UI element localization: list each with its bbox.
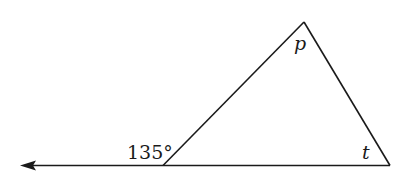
exterior-angle-label: 135° xyxy=(127,141,173,163)
left-side xyxy=(163,22,304,166)
top-angle-label: p xyxy=(294,32,306,54)
triangle-diagram: 135° p t xyxy=(0,0,408,191)
right-side xyxy=(304,22,390,166)
right-angle-label: t xyxy=(362,141,370,163)
